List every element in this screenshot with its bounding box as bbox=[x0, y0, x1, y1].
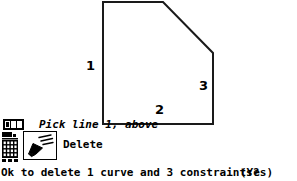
mouse-left-button-icon bbox=[3, 119, 24, 130]
confirm-question: Ok to delete 1 curve and 3 constraints? bbox=[1, 166, 259, 180]
eraser-delete-icon bbox=[24, 132, 56, 159]
edge-label-2: 2 bbox=[155, 103, 164, 116]
confirm-bar: Ok to delete 1 curve and 3 constraints? … bbox=[0, 165, 297, 181]
edge-label-3: 3 bbox=[199, 79, 208, 92]
cad-sketch-screen: 1 2 3 Pick line 1, above bbox=[0, 0, 297, 181]
edge-label-1: 1 bbox=[86, 59, 95, 72]
sketch-canvas[interactable]: 1 2 3 bbox=[0, 0, 297, 125]
tool-bar: Delete bbox=[0, 130, 297, 162]
sketch-geometry bbox=[0, 0, 297, 125]
confirm-answer[interactable]: (Yes) bbox=[240, 166, 273, 180]
delete-tool-label: Delete bbox=[63, 138, 103, 152]
delete-tool-button[interactable] bbox=[23, 131, 57, 160]
